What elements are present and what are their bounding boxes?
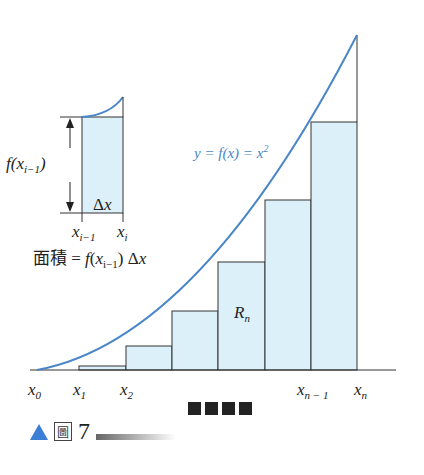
redacted-blocks bbox=[188, 402, 252, 415]
inset-height-label: f(xi−1) bbox=[6, 154, 46, 175]
tick-x0: x0 bbox=[28, 380, 41, 401]
inset-right-tick: xi bbox=[117, 222, 128, 243]
inset-left-tick: xi−1 bbox=[72, 222, 96, 243]
caption-bar bbox=[96, 434, 176, 440]
tick-xn: xn bbox=[354, 380, 367, 401]
rn-label: Rn bbox=[234, 303, 250, 324]
triangle-icon bbox=[30, 424, 48, 440]
inset-area-label: 面積 = f(xi−1) Δx bbox=[33, 244, 146, 270]
caption-number: 7 bbox=[78, 418, 90, 445]
figure-caption: 圖 7 bbox=[30, 418, 176, 445]
inset-dx-label: Δx bbox=[93, 195, 111, 215]
tick-x1: x1 bbox=[73, 380, 86, 401]
caption-label: 圖 bbox=[54, 422, 72, 441]
tick-x2: x2 bbox=[120, 380, 133, 401]
tick-xn-1: xn − 1 bbox=[297, 380, 328, 401]
curve-label: y = f(x) = x2 bbox=[194, 143, 268, 162]
